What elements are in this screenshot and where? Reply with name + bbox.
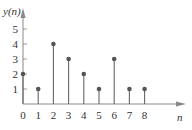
y-tick-label: 3 [13,53,19,65]
x-tick-label: 4 [81,109,87,121]
x-tick-label: 3 [66,109,72,121]
y-axis-label: y(n) [2,5,21,18]
x-axis-label: n [177,111,183,123]
y-tick-label: 5 [13,23,19,35]
stem-marker [142,87,147,92]
x-tick-label: 7 [127,109,133,121]
stem-marker [82,72,87,77]
y-tick-label: 4 [13,38,19,50]
y-tick-label: 2 [13,68,19,80]
stem-marker [112,57,117,62]
plot-area: 12345012345678y(n)n [0,0,192,130]
y-tick-label: 1 [13,83,19,95]
stem-marker [97,87,102,92]
stem-marker [21,72,26,77]
stem-marker [36,87,41,92]
x-tick-label: 6 [111,109,117,121]
stem-marker [127,87,132,92]
x-tick-label: 1 [35,109,41,121]
stem-marker [51,42,56,47]
x-axis-arrow-icon [176,102,186,107]
y-axis-arrow-icon [21,8,26,18]
x-tick-label: 8 [142,109,148,121]
x-tick-label: 2 [51,109,57,121]
x-tick-label: 0 [20,109,26,121]
stem-marker [66,57,71,62]
stem-plot: 12345012345678y(n)n [0,0,192,130]
x-tick-label: 5 [96,109,102,121]
